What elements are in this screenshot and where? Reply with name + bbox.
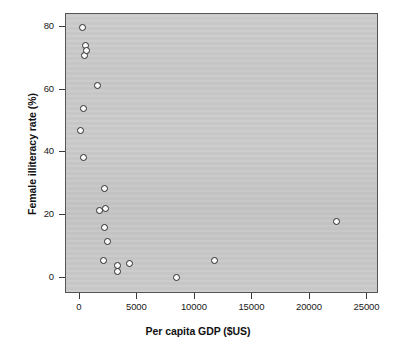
x-axis-tick: [136, 293, 137, 299]
data-point: [83, 47, 90, 54]
data-point: [333, 218, 340, 225]
x-axis-tick-label: 0: [49, 301, 109, 312]
data-point: [100, 257, 107, 264]
y-axis-tick: [59, 151, 65, 152]
data-point: [102, 205, 109, 212]
y-axis-tick-label: 20: [0, 208, 54, 219]
plot-panel: [65, 13, 378, 293]
x-axis-tick-label: 10000: [164, 301, 224, 312]
scatter-plot-figure: Per capita GDP ($US) Female illiteracy r…: [0, 0, 396, 352]
x-axis-tick-label: 20000: [279, 301, 339, 312]
y-axis-tick-label: 40: [0, 145, 54, 156]
data-point: [77, 127, 84, 134]
x-axis-tick-label: 15000: [221, 301, 281, 312]
data-point: [79, 24, 86, 31]
plot-area: [66, 14, 377, 292]
data-point: [104, 238, 111, 245]
y-axis-tick: [59, 89, 65, 90]
x-axis-tick: [309, 293, 310, 299]
y-axis-tick: [59, 214, 65, 215]
y-axis-tick-label: 60: [0, 83, 54, 94]
data-point: [211, 257, 218, 264]
panel-texture: [66, 14, 377, 292]
x-axis-tick-label: 5000: [106, 301, 166, 312]
y-axis-tick-label: 0: [0, 271, 54, 282]
data-point: [94, 82, 101, 89]
y-axis-tick: [59, 26, 65, 27]
y-axis-tick-label: 80: [0, 20, 54, 31]
data-point: [173, 274, 180, 281]
x-axis-tick: [366, 293, 367, 299]
y-axis-tick: [59, 277, 65, 278]
x-axis-tick: [251, 293, 252, 299]
x-axis-tick: [194, 293, 195, 299]
data-point: [114, 268, 121, 275]
data-point: [126, 260, 133, 267]
x-axis-tick-label: 25000: [336, 301, 396, 312]
x-axis-label: Per capita GDP ($US): [0, 325, 396, 337]
data-point: [101, 224, 108, 231]
x-axis-tick: [79, 293, 80, 299]
data-point: [80, 105, 87, 112]
data-point: [101, 185, 108, 192]
data-point: [80, 154, 87, 161]
